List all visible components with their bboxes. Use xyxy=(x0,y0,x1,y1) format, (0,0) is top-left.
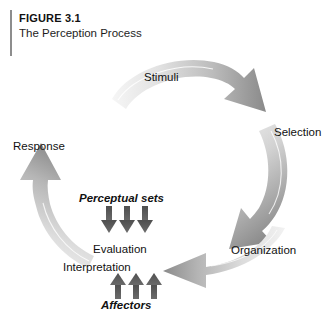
affectors-arrow-1 xyxy=(110,273,126,299)
perceptual-sets-arrows xyxy=(101,206,153,233)
stage-label-evaluation: Evaluation xyxy=(93,243,147,256)
perceptual-sets-arrow-1 xyxy=(101,206,117,233)
cycle-arrows-graphic xyxy=(0,0,332,317)
stage-label-selection: Selection xyxy=(274,126,321,139)
stage-label-stimuli: Stimuli xyxy=(144,71,179,84)
arrow-organization-to-interpretation xyxy=(163,226,285,288)
perception-process-diagram: Stimuli Selection Organization Interpret… xyxy=(0,0,332,317)
affectors-arrow-3 xyxy=(146,273,162,299)
affectors-arrows xyxy=(110,273,162,299)
influence-label-affectors: Affectors xyxy=(101,299,151,312)
stage-label-organization: Organization xyxy=(231,244,296,257)
perceptual-sets-arrow-3 xyxy=(137,206,153,233)
affectors-arrow-2 xyxy=(128,273,144,299)
influence-label-perceptual-sets: Perceptual sets xyxy=(79,192,164,205)
perceptual-sets-arrow-2 xyxy=(119,206,135,233)
arrow-response-to-stimuli xyxy=(20,143,94,268)
stage-label-response: Response xyxy=(13,140,65,153)
stage-label-interpretation: Interpretation xyxy=(63,261,131,274)
arrow-stimuli-to-selection xyxy=(112,60,266,112)
